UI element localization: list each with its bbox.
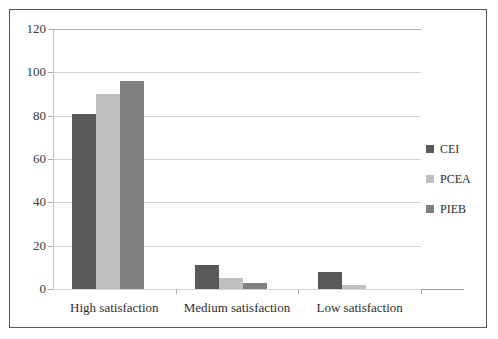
bar-group	[72, 29, 144, 289]
y-axis-tick	[48, 72, 53, 73]
y-axis-tick	[48, 289, 53, 290]
legend-label: PCEA	[440, 173, 471, 185]
gridline	[53, 289, 421, 290]
bar-cei-2[interactable]	[318, 272, 342, 289]
y-axis-tick-label: 20	[12, 239, 46, 252]
y-axis-tick	[48, 246, 53, 247]
x-axis-category-label: High satisfaction	[53, 300, 176, 315]
y-axis-tick-label: 0	[12, 282, 46, 295]
bar-pieb-0[interactable]	[120, 81, 144, 289]
x-axis-category-label: Medium satisfaction	[176, 300, 299, 315]
legend-label: PIEB	[440, 203, 466, 215]
bar-cei-1[interactable]	[195, 265, 219, 289]
y-axis-tick-label: 60	[12, 152, 46, 165]
legend-item-pieb[interactable]: PIEB	[426, 194, 486, 224]
legend-swatch-icon	[426, 175, 434, 183]
legend-item-cei[interactable]: CEI	[426, 134, 486, 164]
bar-pcea-0[interactable]	[96, 94, 120, 289]
y-axis-tick	[48, 116, 53, 117]
legend-swatch-icon	[426, 145, 434, 153]
x-axis-category-label: Low satisfaction	[298, 300, 421, 315]
y-axis-tick	[48, 29, 53, 30]
bar-group	[318, 29, 390, 289]
x-axis-tick	[176, 289, 177, 294]
x-axis-tick	[298, 289, 299, 294]
bar-pieb-1[interactable]	[243, 283, 267, 290]
bar-pcea-1[interactable]	[219, 278, 243, 289]
y-axis-tick-label: 120	[12, 22, 46, 35]
legend-item-pcea[interactable]: PCEA	[426, 164, 486, 194]
bar-group	[195, 29, 267, 289]
y-axis-tick-labels: 020406080100120	[10, 10, 46, 310]
legend-swatch-icon	[426, 205, 434, 213]
plot-area	[53, 29, 421, 289]
chart-legend: CEIPCEAPIEB	[426, 134, 486, 224]
chart-frame: 020406080100120 CEIPCEAPIEB High satisfa…	[9, 9, 487, 328]
y-axis-tick-label: 40	[12, 195, 46, 208]
y-axis-tick-label: 100	[12, 65, 46, 78]
y-axis-tick-label: 80	[12, 109, 46, 122]
y-axis-tick	[48, 159, 53, 160]
legend-label: CEI	[440, 143, 459, 155]
bar-pcea-2[interactable]	[342, 285, 366, 289]
x-axis-tick	[421, 289, 422, 294]
y-axis-tick	[48, 202, 53, 203]
bar-cei-0[interactable]	[72, 114, 96, 290]
